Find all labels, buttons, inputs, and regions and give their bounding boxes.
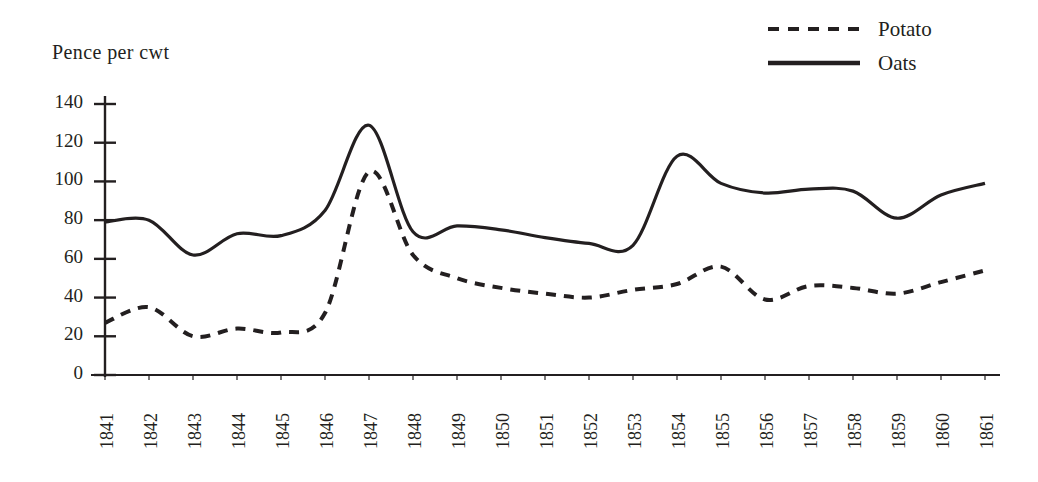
x-tick-label: 1852 xyxy=(581,413,602,449)
x-tick-label: 1858 xyxy=(845,413,866,449)
x-tick-label: 1859 xyxy=(889,413,910,449)
y-tick-label: 60 xyxy=(23,246,83,268)
x-tick-label: 1847 xyxy=(361,413,382,449)
y-tick-label: 40 xyxy=(23,285,83,307)
y-tick-label: 140 xyxy=(23,91,83,113)
x-tick-label: 1849 xyxy=(449,413,470,449)
plot-area xyxy=(0,0,1038,482)
x-tick-label: 1845 xyxy=(273,413,294,449)
x-tick-label: 1848 xyxy=(405,413,426,449)
x-tick-label: 1846 xyxy=(317,413,338,449)
series-line-oats xyxy=(105,125,985,255)
x-tick-label: 1843 xyxy=(185,413,206,449)
y-tick-label: 100 xyxy=(23,168,83,190)
y-tick-label: 20 xyxy=(23,323,83,345)
x-tick-label: 1855 xyxy=(713,413,734,449)
y-tick-label: 80 xyxy=(23,207,83,229)
x-tick-label: 1860 xyxy=(933,413,954,449)
chart-figure: Pence per cwt Potato Oats 02040608010012… xyxy=(0,0,1038,482)
x-tick-label: 1841 xyxy=(97,413,118,449)
x-tick-label: 1856 xyxy=(757,413,778,449)
x-tick-label: 1844 xyxy=(229,413,250,449)
x-tick-label: 1854 xyxy=(669,413,690,449)
y-tick-label: 0 xyxy=(23,362,83,384)
series-line-potato xyxy=(105,171,985,337)
x-tick-label: 1853 xyxy=(625,413,646,449)
x-tick-label: 1850 xyxy=(493,413,514,449)
y-tick-label: 120 xyxy=(23,130,83,152)
x-tick-label: 1842 xyxy=(141,413,162,449)
x-tick-label: 1851 xyxy=(537,413,558,449)
x-tick-label: 1861 xyxy=(977,413,998,449)
x-tick-label: 1857 xyxy=(801,413,822,449)
